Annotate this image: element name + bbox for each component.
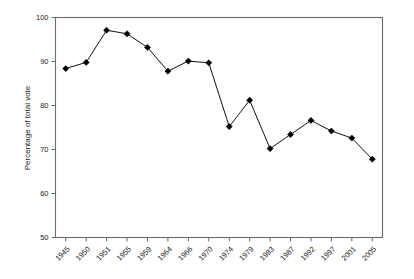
line-chart-svg: Percentage of total vote 5060708090100 1… <box>0 0 414 279</box>
x-tick-label: 1997 <box>319 245 337 263</box>
x-tick-label: 1950 <box>74 245 92 263</box>
data-point-marker <box>328 128 334 134</box>
plot-frame <box>56 18 383 238</box>
data-point-marker <box>124 31 130 37</box>
x-tick-label: 1983 <box>258 245 276 263</box>
chart-figure: Percentage of total vote 5060708090100 1… <box>0 0 414 279</box>
x-tick-label: 2005 <box>360 245 378 263</box>
y-tick-label: 100 <box>36 13 49 22</box>
data-point-marker <box>185 58 191 64</box>
x-axis: 1945195019511955195919641966197019741979… <box>53 238 378 263</box>
data-point-marker <box>103 27 109 33</box>
y-axis: 5060708090100 <box>36 13 56 242</box>
x-tick-label: 1955 <box>115 245 133 263</box>
x-tick-label: 1992 <box>299 245 317 263</box>
x-tick-label: 1951 <box>94 245 112 263</box>
x-tick-label: 1945 <box>53 245 71 263</box>
x-tick-label: 1964 <box>156 245 174 263</box>
x-tick-label: 1979 <box>237 245 255 263</box>
y-axis-title: Percentage of total vote <box>23 85 32 170</box>
y-tick-label: 70 <box>40 145 48 154</box>
data-series <box>63 27 376 162</box>
y-tick-label: 80 <box>40 101 48 110</box>
x-tick-label: 1966 <box>176 245 194 263</box>
data-point-marker <box>287 131 293 137</box>
y-tick-label: 60 <box>40 189 48 198</box>
x-tick-label: 2001 <box>340 245 358 263</box>
x-tick-label: 1970 <box>197 245 215 263</box>
data-point-marker <box>206 60 212 66</box>
data-point-marker <box>267 146 273 152</box>
y-tick-label: 90 <box>40 57 48 66</box>
y-tick-label: 50 <box>40 233 48 242</box>
x-tick-label: 1974 <box>217 245 235 263</box>
x-tick-label: 1987 <box>278 245 296 263</box>
x-tick-label: 1959 <box>135 245 153 263</box>
data-point-marker <box>308 117 314 123</box>
series-line <box>66 30 373 159</box>
data-point-marker <box>63 65 69 71</box>
data-point-marker <box>83 59 89 65</box>
